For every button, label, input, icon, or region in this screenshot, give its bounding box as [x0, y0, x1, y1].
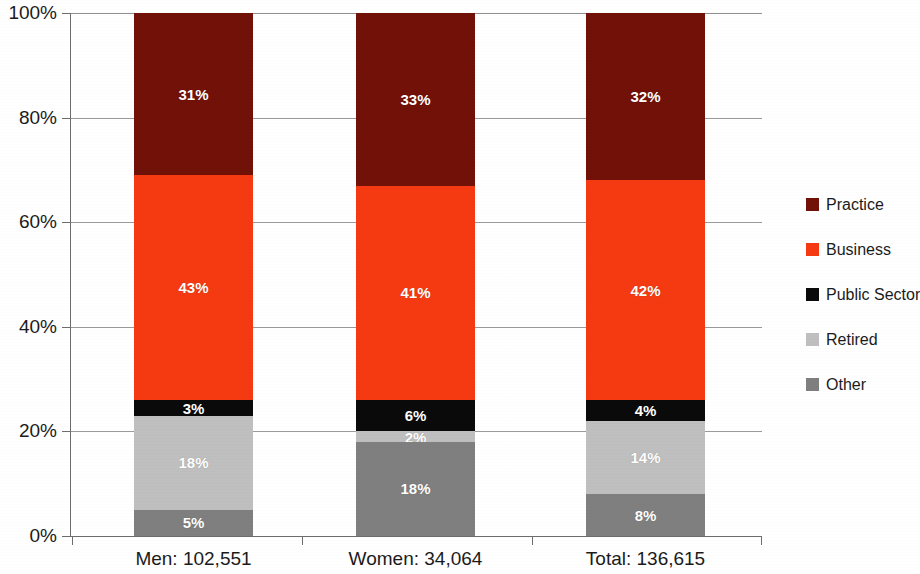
- bar-segment: 5%: [134, 510, 253, 536]
- legend-swatch-icon: [806, 288, 819, 301]
- bar-segment: 4%: [586, 400, 705, 421]
- bar-1: 31%43%3%18%5%: [134, 13, 253, 536]
- x-axis-line: [71, 536, 762, 537]
- legend-item[interactable]: Business: [806, 241, 920, 258]
- bar-segment: 32%: [586, 13, 705, 180]
- x-axis-tick: [72, 537, 73, 545]
- bar-segment-label: 31%: [178, 87, 208, 102]
- legend-label: Business: [826, 242, 891, 258]
- bar-segment-label: 18%: [400, 481, 430, 496]
- bar-segment-label: 43%: [178, 280, 208, 295]
- legend-swatch-icon: [806, 378, 819, 391]
- bar-segment-label: 5%: [183, 515, 205, 530]
- y-axis-tick-label: 40%: [19, 316, 57, 338]
- x-axis-category-label: Men: 102,551: [135, 548, 251, 570]
- x-axis-category-label: Women: 34,064: [349, 548, 483, 570]
- bar-segment: 3%: [134, 400, 253, 416]
- bar-segment: 8%: [586, 494, 705, 536]
- bar-segment: 42%: [586, 180, 705, 400]
- bar-segment-label: 6%: [405, 408, 427, 423]
- plot-area: 31%43%3%18%5%33%41%6%2%18%32%42%4%14%8%: [71, 13, 762, 536]
- y-axis-tick: [62, 222, 71, 223]
- bar-segment: 43%: [134, 175, 253, 400]
- bar-segment-label: 14%: [630, 450, 660, 465]
- y-axis-line: [70, 13, 71, 537]
- bar-segment: 41%: [356, 186, 475, 400]
- bar-segment-label: 42%: [630, 283, 660, 298]
- legend-label: Practice: [826, 197, 884, 213]
- y-axis-tick-label: 60%: [19, 211, 57, 233]
- y-axis-tick: [62, 13, 71, 14]
- chart-legend: PracticeBusinessPublic SectorRetiredOthe…: [806, 196, 920, 393]
- bar-segment-label: 8%: [635, 508, 657, 523]
- x-axis-tick: [761, 537, 762, 545]
- bar-segment-label: 32%: [630, 89, 660, 104]
- bar-segment: 31%: [134, 13, 253, 175]
- legend-item[interactable]: Practice: [806, 196, 920, 213]
- bar-segment-label: 3%: [183, 400, 205, 415]
- legend-swatch-icon: [806, 243, 819, 256]
- y-axis-tick-label: 0%: [30, 525, 57, 547]
- x-axis-category-label: Total: 136,615: [586, 548, 705, 570]
- bar-3: 32%42%4%14%8%: [586, 13, 705, 536]
- legend-label: Public Sector: [826, 287, 920, 303]
- y-axis-tick-label: 100%: [8, 2, 57, 24]
- y-axis-tick: [62, 431, 71, 432]
- bar-segment: 33%: [356, 13, 475, 186]
- y-axis-tick-label: 20%: [19, 420, 57, 442]
- bar-segment: 6%: [356, 400, 475, 431]
- y-axis-labels: 100%80%60%40%20%0%: [0, 0, 57, 574]
- bar-2: 33%41%6%2%18%: [356, 13, 475, 536]
- y-axis-tick-label: 80%: [19, 107, 57, 129]
- legend-item[interactable]: Other: [806, 376, 920, 393]
- legend-item[interactable]: Public Sector: [806, 286, 920, 303]
- bar-segment: 14%: [586, 421, 705, 494]
- bar-segment: 18%: [356, 442, 475, 536]
- bar-segment-label: 33%: [400, 92, 430, 107]
- legend-swatch-icon: [806, 198, 819, 211]
- legend-label: Retired: [826, 332, 878, 348]
- bar-segment-label: 4%: [635, 403, 657, 418]
- bar-segment-label: 41%: [400, 285, 430, 300]
- y-axis-tick: [62, 327, 71, 328]
- legend-label: Other: [826, 377, 866, 393]
- legend-item[interactable]: Retired: [806, 331, 920, 348]
- x-axis-tick: [302, 537, 303, 545]
- stacked-bar-chart: 100%80%60%40%20%0% 31%43%3%18%5%33%41%6%…: [0, 0, 920, 574]
- bar-segment: 18%: [134, 416, 253, 510]
- y-axis-tick: [62, 118, 71, 119]
- bar-segment-label: 18%: [178, 455, 208, 470]
- legend-swatch-icon: [806, 333, 819, 346]
- x-axis-tick: [532, 537, 533, 545]
- bar-segment: 2%: [356, 431, 475, 441]
- y-axis-tick: [62, 536, 71, 537]
